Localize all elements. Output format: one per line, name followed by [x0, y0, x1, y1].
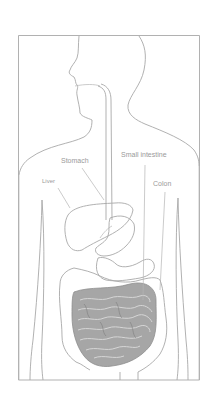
anatomy-illustration: Stomach Small intestine Liver Colon — [0, 0, 210, 397]
duodenum — [96, 257, 154, 280]
label-small-intestine: Small intestine — [121, 151, 167, 158]
right-arm — [178, 198, 188, 380]
head-outline — [19, 36, 92, 175]
liver-leader — [58, 188, 70, 208]
left-arm — [30, 200, 42, 380]
left-arm-inner — [42, 200, 44, 380]
label-stomach: Stomach — [61, 157, 89, 164]
mouth-line — [75, 85, 100, 87]
label-liver: Liver — [42, 178, 55, 184]
right-arm-inner — [176, 198, 178, 380]
small-intestine-leader — [143, 165, 145, 300]
stomach-detail — [100, 226, 112, 238]
liver — [65, 203, 133, 251]
esophagus-outer — [101, 84, 112, 220]
colon-leader — [160, 192, 165, 290]
esophagus — [98, 86, 106, 220]
digestive-system-figure: Stomach Small intestine Liver Colon — [0, 0, 210, 397]
small-intestine — [72, 283, 156, 367]
label-colon: Colon — [153, 180, 171, 187]
back-of-head-outline — [128, 36, 199, 166]
stomach-leader — [82, 168, 104, 200]
